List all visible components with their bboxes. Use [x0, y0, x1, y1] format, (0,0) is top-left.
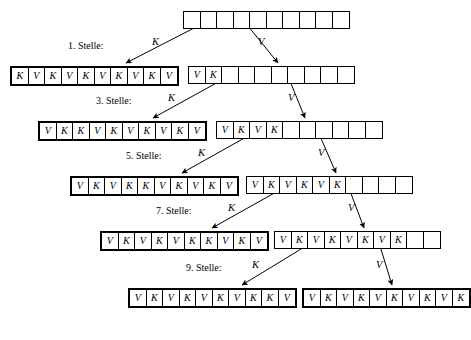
array-cell[interactable]: K — [147, 290, 164, 306]
array-cell[interactable]: V — [308, 232, 325, 248]
array-cell[interactable]: V — [341, 232, 358, 248]
array-cell[interactable] — [283, 122, 300, 138]
array-cell[interactable] — [396, 177, 413, 193]
array-cell[interactable]: K — [387, 290, 404, 306]
array-cell[interactable] — [288, 67, 305, 83]
array-cell[interactable]: K — [171, 178, 188, 194]
array-cell[interactable]: V — [217, 122, 234, 138]
array-cell[interactable]: K — [172, 123, 189, 139]
array-cell[interactable]: V — [105, 178, 122, 194]
array-cell[interactable]: V — [403, 290, 420, 306]
array-cell[interactable]: K — [292, 232, 309, 248]
array-cell[interactable]: V — [247, 177, 264, 193]
array-cell[interactable]: V — [196, 290, 213, 306]
array-cell[interactable]: V — [128, 68, 145, 84]
array-cell[interactable]: K — [297, 177, 314, 193]
array-cell[interactable]: V — [102, 233, 119, 249]
array-cell[interactable] — [234, 12, 251, 28]
level-1-left-array[interactable]: KVKVKVKVKV — [10, 66, 179, 86]
array-cell[interactable]: V — [221, 178, 238, 194]
array-cell[interactable] — [184, 12, 201, 28]
array-cell[interactable]: V — [62, 68, 79, 84]
array-cell[interactable]: K — [122, 178, 139, 194]
array-cell[interactable]: V — [163, 290, 180, 306]
level-3-right-array[interactable]: VKVKVK — [246, 176, 413, 194]
array-cell[interactable] — [333, 12, 350, 28]
array-cell[interactable]: V — [188, 178, 205, 194]
array-cell[interactable]: K — [204, 178, 221, 194]
array-cell[interactable] — [272, 67, 289, 83]
array-cell[interactable]: K — [330, 177, 347, 193]
array-cell[interactable]: K — [358, 232, 375, 248]
array-cell[interactable]: V — [168, 233, 185, 249]
array-cell[interactable] — [333, 122, 350, 138]
level-4-right-array[interactable]: VKVKVKVK — [274, 231, 441, 249]
array-cell[interactable]: K — [12, 68, 29, 84]
array-cell[interactable] — [305, 67, 322, 83]
array-cell[interactable]: V — [279, 290, 296, 306]
array-cell[interactable]: K — [185, 233, 202, 249]
array-cell[interactable]: V — [90, 123, 107, 139]
array-cell[interactable]: V — [280, 177, 297, 193]
array-cell[interactable] — [201, 12, 218, 28]
array-cell[interactable]: K — [201, 233, 218, 249]
array-cell[interactable] — [366, 122, 383, 138]
level-2-left-array[interactable]: VKKVKVKVKV — [38, 121, 207, 141]
array-cell[interactable]: V — [95, 68, 112, 84]
array-cell[interactable]: K — [89, 178, 106, 194]
level-4-left-array[interactable]: VKVKVKKVKV — [100, 231, 269, 251]
array-cell[interactable] — [349, 122, 366, 138]
array-cell[interactable]: V — [304, 290, 321, 306]
array-cell[interactable]: V — [189, 123, 206, 139]
array-cell[interactable] — [300, 122, 317, 138]
array-cell[interactable]: V — [72, 178, 89, 194]
array-cell[interactable] — [217, 12, 234, 28]
array-cell[interactable]: V — [251, 233, 268, 249]
array-cell[interactable] — [379, 177, 396, 193]
array-cell[interactable] — [346, 177, 363, 193]
array-cell[interactable]: V — [275, 232, 292, 248]
array-cell[interactable] — [250, 12, 267, 28]
array-cell[interactable]: K — [391, 232, 408, 248]
array-cell[interactable]: K — [267, 122, 284, 138]
array-cell[interactable] — [267, 12, 284, 28]
array-cell[interactable]: V — [123, 123, 140, 139]
array-cell[interactable]: K — [119, 233, 136, 249]
array-cell[interactable] — [321, 67, 338, 83]
array-cell[interactable]: V — [250, 122, 267, 138]
level-3-left-array[interactable]: VKVKKVKVKV — [70, 176, 239, 196]
array-cell[interactable]: V — [155, 178, 172, 194]
array-cell[interactable]: K — [264, 177, 281, 193]
array-cell[interactable]: K — [262, 290, 279, 306]
array-cell[interactable]: V — [313, 177, 330, 193]
array-cell[interactable]: V — [29, 68, 46, 84]
level-5-right-array[interactable]: VKVKVKVKVK — [302, 288, 471, 308]
array-cell[interactable]: K — [45, 68, 62, 84]
array-cell[interactable]: K — [453, 290, 470, 306]
root-array[interactable] — [183, 11, 350, 29]
array-cell[interactable] — [424, 232, 441, 248]
array-cell[interactable]: K — [144, 68, 161, 84]
array-cell[interactable] — [255, 67, 272, 83]
array-cell[interactable]: K — [106, 123, 123, 139]
array-cell[interactable] — [222, 67, 239, 83]
array-cell[interactable] — [363, 177, 380, 193]
array-cell[interactable]: K — [180, 290, 197, 306]
array-cell[interactable]: V — [374, 232, 391, 248]
array-cell[interactable]: K — [354, 290, 371, 306]
array-cell[interactable]: K — [321, 290, 338, 306]
array-cell[interactable]: V — [40, 123, 57, 139]
array-cell[interactable]: K — [213, 290, 230, 306]
level-5-left-array[interactable]: VKVKVKVKKV — [128, 288, 297, 308]
array-cell[interactable]: V — [156, 123, 173, 139]
array-cell[interactable]: K — [78, 68, 95, 84]
array-cell[interactable]: K — [246, 290, 263, 306]
array-cell[interactable]: V — [135, 233, 152, 249]
array-cell[interactable] — [239, 67, 256, 83]
array-cell[interactable]: K — [111, 68, 128, 84]
array-cell[interactable]: V — [370, 290, 387, 306]
array-cell[interactable]: K — [138, 178, 155, 194]
array-cell[interactable]: K — [139, 123, 156, 139]
array-cell[interactable] — [316, 122, 333, 138]
array-cell[interactable]: V — [161, 68, 178, 84]
